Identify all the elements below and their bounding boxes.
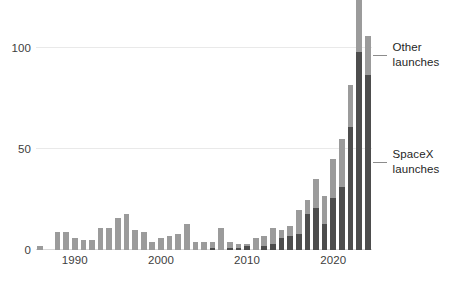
bar-2012 <box>261 236 267 250</box>
bar-2020 <box>330 159 336 250</box>
bar-2006 <box>210 242 216 250</box>
y-tick-label-50: 50 <box>1 144 31 156</box>
bar-segment-other-2013 <box>270 228 276 244</box>
bar-segment-spacex-2021 <box>339 187 345 250</box>
bar-segment-spacex-2009 <box>236 248 242 250</box>
bar-2010 <box>244 244 250 250</box>
bar-segment-spacex-2018 <box>313 208 319 250</box>
leader-line-other <box>373 55 387 56</box>
bar-segment-other-1995 <box>115 218 121 250</box>
bar-segment-other-1988 <box>55 232 61 250</box>
bar-1994 <box>106 228 112 250</box>
x-tick-label-2010: 2010 <box>234 255 260 267</box>
bar-segment-other-1992 <box>89 240 95 250</box>
bar-segment-other-1999 <box>149 242 155 250</box>
bar-2017 <box>305 200 311 250</box>
bar-2014 <box>279 230 285 250</box>
plot-area <box>36 8 372 250</box>
bar-segment-other-1991 <box>81 240 87 250</box>
bar-2021 <box>339 139 345 250</box>
bar-segment-other-2011 <box>253 238 259 250</box>
y-tick-label-0: 0 <box>1 245 31 257</box>
bar-segment-other-1997 <box>132 230 138 250</box>
bar-segment-other-1994 <box>106 228 112 250</box>
bar-2009 <box>236 244 242 250</box>
gridline-50 <box>36 148 372 149</box>
bar-2004 <box>193 242 199 250</box>
bar-2011 <box>253 238 259 250</box>
bar-segment-other-2021 <box>339 139 345 187</box>
gridline-100 <box>36 47 372 48</box>
bar-segment-other-2015 <box>287 226 293 236</box>
legend-spacex-label-line2: launches <box>393 163 440 177</box>
bar-segment-other-2005 <box>201 242 207 250</box>
bar-segment-spacex-2013 <box>270 244 276 250</box>
bar-1999 <box>149 242 155 250</box>
bar-segment-spacex-2023 <box>356 52 362 250</box>
bar-segment-other-2018 <box>313 179 319 207</box>
bar-segment-spacex-2008 <box>227 248 233 250</box>
leader-line-spacex <box>373 162 387 163</box>
bar-segment-other-2014 <box>279 230 285 238</box>
bar-2023 <box>356 0 362 250</box>
legend-other-label-line1: Other <box>393 41 422 55</box>
x-tick-label-2000: 2000 <box>148 255 174 267</box>
bar-2000 <box>158 238 164 250</box>
bar-segment-other-2019 <box>322 196 328 224</box>
bar-segment-other-1989 <box>63 232 69 250</box>
y-axis: 050100 <box>0 8 31 250</box>
bar-segment-spacex-2016 <box>296 234 302 250</box>
bar-segment-other-2016 <box>296 210 302 234</box>
bar-1993 <box>98 228 104 250</box>
bar-segment-other-1993 <box>98 228 104 250</box>
bar-2022 <box>348 85 354 250</box>
launch-chart: 050100 1990200020102020 Other launches S… <box>0 0 476 287</box>
bar-1995 <box>115 218 121 250</box>
bar-2007 <box>218 228 224 250</box>
bar-segment-spacex-2019 <box>322 224 328 250</box>
legend-other-label-line2: launches <box>393 56 440 70</box>
bar-2018 <box>313 179 319 250</box>
x-axis: 1990200020102020 <box>36 255 372 275</box>
bar-segment-spacex-2024 <box>365 75 371 250</box>
bar-1992 <box>89 240 95 250</box>
bar-segment-other-1998 <box>141 232 147 250</box>
bar-1996 <box>124 214 130 250</box>
bar-1988 <box>55 232 61 250</box>
bar-2002 <box>175 234 181 250</box>
bar-2015 <box>287 226 293 250</box>
bar-2003 <box>184 224 190 250</box>
bar-segment-other-2003 <box>184 224 190 250</box>
bar-2019 <box>322 196 328 250</box>
bar-1990 <box>72 238 78 250</box>
bar-segment-other-2012 <box>261 236 267 246</box>
bar-segment-other-1996 <box>124 214 130 250</box>
bar-segment-other-1986 <box>37 246 43 250</box>
bar-segment-other-2020 <box>330 159 336 197</box>
bar-segment-other-2004 <box>193 242 199 250</box>
bar-segment-other-2001 <box>167 236 173 250</box>
bar-segment-other-2010 <box>244 244 250 246</box>
bar-1998 <box>141 232 147 250</box>
bar-2001 <box>167 236 173 250</box>
bar-segment-spacex-2020 <box>330 198 336 250</box>
bar-1989 <box>63 232 69 250</box>
bar-segment-other-2002 <box>175 234 181 250</box>
bar-segment-other-2006 <box>210 242 216 248</box>
bar-2016 <box>296 210 302 250</box>
bar-2013 <box>270 228 276 250</box>
bar-segment-spacex-2012 <box>261 246 267 250</box>
bar-segment-spacex-2017 <box>305 214 311 250</box>
bar-segment-other-2008 <box>227 242 233 248</box>
x-tick-label-2020: 2020 <box>320 255 346 267</box>
bar-1986 <box>37 246 43 250</box>
bar-1991 <box>81 240 87 250</box>
bar-1997 <box>132 230 138 250</box>
bar-segment-spacex-2015 <box>287 236 293 250</box>
bar-segment-spacex-2014 <box>279 238 285 250</box>
legend-spacex-label-line1: SpaceX <box>393 148 434 162</box>
bar-segment-other-2009 <box>236 244 242 248</box>
bar-segment-spacex-2006 <box>210 248 216 250</box>
bar-segment-other-2022 <box>348 85 354 127</box>
bar-2024 <box>365 36 371 250</box>
